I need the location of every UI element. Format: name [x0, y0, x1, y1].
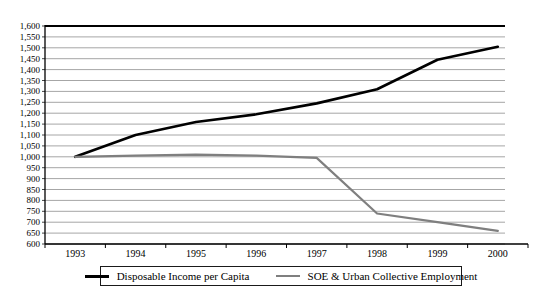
x-tick-label: 1999 — [415, 248, 459, 259]
y-tick-label: 850 — [0, 185, 40, 195]
y-tick-label: 1,300 — [0, 86, 40, 96]
series-line-0 — [75, 47, 498, 157]
y-tick-label: 950 — [0, 163, 40, 173]
y-tick-label: 1,450 — [0, 54, 40, 64]
y-tick-label: 1,250 — [0, 97, 40, 107]
y-tick-label: 1,100 — [0, 130, 40, 140]
y-tick-label: 700 — [0, 217, 40, 227]
y-tick-label: 600 — [0, 239, 40, 249]
y-tick-label: 1,600 — [0, 21, 40, 31]
chart: 1,6001,5501,5001,4501,4001,3501,3001,250… — [0, 0, 538, 299]
x-tick-label: 1997 — [295, 248, 339, 259]
legend-item-income: Disposable Income per Capita — [85, 270, 250, 282]
series-line-1 — [75, 155, 498, 231]
y-tick-label: 900 — [0, 174, 40, 184]
y-tick-label: 650 — [0, 228, 40, 238]
x-tick-label: 1996 — [234, 248, 278, 259]
legend: Disposable Income per Capita SOE & Urban… — [100, 266, 462, 286]
legend-label-employment: SOE & Urban Collective Employment — [308, 270, 478, 282]
y-tick-label: 1,500 — [0, 43, 40, 53]
y-tick-label: 1,050 — [0, 141, 40, 151]
y-tick-label: 1,550 — [0, 32, 40, 42]
income-line-sample-icon — [85, 275, 109, 278]
x-tick-label: 1994 — [114, 248, 158, 259]
y-tick-label: 1,000 — [0, 152, 40, 162]
employment-line-sample-icon — [276, 275, 300, 277]
y-tick-label: 750 — [0, 206, 40, 216]
y-tick-label: 1,200 — [0, 108, 40, 118]
x-tick-label: 2000 — [476, 248, 520, 259]
legend-item-employment: SOE & Urban Collective Employment — [276, 270, 478, 282]
x-tick-label: 1998 — [355, 248, 399, 259]
x-tick-label: 1993 — [53, 248, 97, 259]
y-tick-label: 1,350 — [0, 76, 40, 86]
legend-label-income: Disposable Income per Capita — [117, 270, 250, 282]
x-tick-label: 1995 — [174, 248, 218, 259]
y-tick-label: 800 — [0, 195, 40, 205]
y-tick-label: 1,400 — [0, 65, 40, 75]
y-tick-label: 1,150 — [0, 119, 40, 129]
